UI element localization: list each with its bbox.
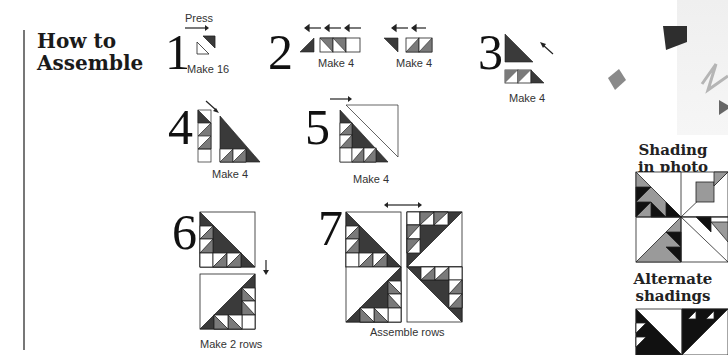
step-4-number: 4 [168,105,193,149]
dark-fabric-scrap-icon [663,26,687,50]
step-2-number: 2 [268,30,293,74]
step-1-hst-unit [195,34,217,56]
title-line-2: Assemble [37,52,143,74]
step-4-caption: Make 4 [212,168,248,180]
step-2b-unit [384,36,436,54]
thread-squiggle-icon [702,64,728,90]
step-7-assembled-rows [346,200,466,334]
page-title: How to Assemble [37,30,143,74]
step-4-unit [198,100,268,166]
alternate-shading-block [636,309,728,355]
shading-in-photo-title: Shading in photo [618,142,728,176]
step-2b-caption: Make 4 [396,57,432,69]
step-5-unit [330,96,402,162]
step-3-caption: Make 4 [509,92,545,104]
step-5-number: 5 [305,105,330,149]
step-6-number: 6 [172,210,197,254]
step-1-caption: Make 16 [187,63,229,75]
small-fabric-scrap-icon [719,100,728,115]
shading-in-photo-block [636,172,728,262]
step-6-rows [200,212,280,340]
decorative-fabric-scraps [600,20,728,130]
step-5-caption: Make 4 [353,173,389,185]
step-6-caption: Make 2 rows [200,338,262,350]
step-3-number: 3 [478,30,503,74]
gray-fabric-scrap-icon [608,69,626,90]
step-2a-unit [300,36,362,54]
step-1-press-label: Press [185,12,213,24]
alternate-shadings-title: Alternate shadings [618,271,728,305]
step-7-caption: Assemble rows [370,326,445,338]
step-7-number: 7 [318,206,343,250]
press-arrow-icon [185,24,209,32]
margin-rule [23,30,25,350]
step-2a-caption: Make 4 [318,57,354,69]
step-3-unit [505,34,555,94]
step-2-arrows-icon [305,24,365,32]
title-line-1: How to [37,30,143,52]
step-2b-arrows-icon [392,24,428,32]
